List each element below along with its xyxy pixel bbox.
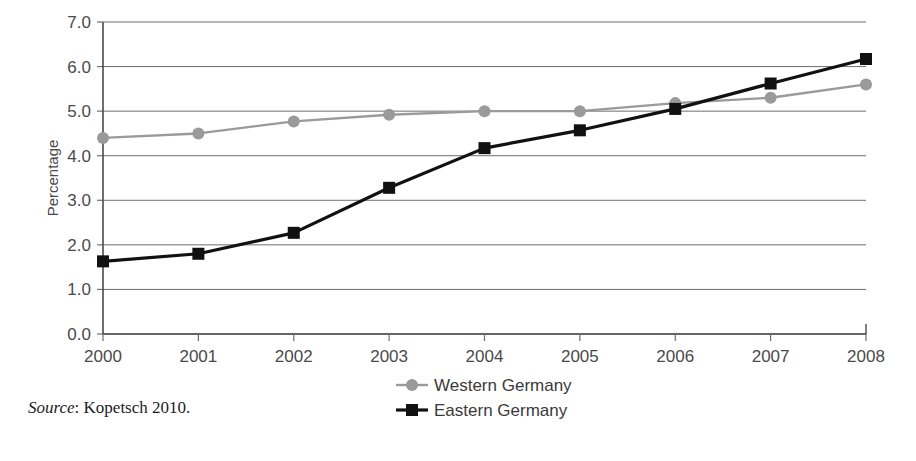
- data-point-marker: [192, 127, 204, 139]
- legend-item-eastern-germany: Eastern Germany: [396, 401, 568, 420]
- x-tick-label: 2004: [466, 347, 504, 366]
- x-tick-label: 2000: [84, 347, 122, 366]
- data-point-marker: [97, 132, 109, 144]
- data-point-marker: [669, 103, 681, 115]
- data-point-marker: [765, 78, 777, 90]
- y-tick-label: 6.0: [67, 58, 91, 77]
- data-point-marker: [97, 255, 109, 267]
- y-tick-label: 4.0: [67, 147, 91, 166]
- y-tick-label: 3.0: [67, 191, 91, 210]
- data-point-marker: [288, 115, 300, 127]
- x-axis-tick-labels: 200020012002200320042005200620072008: [84, 347, 885, 366]
- legend-item-western-germany: Western Germany: [396, 376, 572, 395]
- data-point-marker: [765, 92, 777, 104]
- data-series: [97, 53, 872, 267]
- y-axis-tick-labels: 0.01.02.03.04.05.06.07.0: [67, 13, 91, 344]
- data-point-marker: [574, 105, 586, 117]
- line-chart: 0.01.02.03.04.05.06.07.0 200020012002200…: [0, 0, 916, 461]
- chart-figure: 0.01.02.03.04.05.06.07.0 200020012002200…: [0, 0, 916, 461]
- data-point-marker: [860, 53, 872, 65]
- gridlines: [97, 22, 866, 334]
- data-point-marker: [860, 78, 872, 90]
- data-point-marker: [383, 109, 395, 121]
- y-tick-label: 2.0: [67, 236, 91, 255]
- data-point-marker: [574, 124, 586, 136]
- y-tick-label: 0.0: [67, 325, 91, 344]
- y-axis-title: Percentage: [44, 140, 61, 217]
- y-axis-title-text: Percentage: [44, 140, 61, 217]
- data-point-marker: [288, 227, 300, 239]
- x-axis-line: [103, 324, 866, 334]
- x-tick-label: 2005: [561, 347, 599, 366]
- source-label: Source: [28, 398, 75, 417]
- series-eastern-germany: [97, 53, 872, 267]
- data-point-marker: [192, 248, 204, 260]
- source-text: Kopetsch 2010.: [84, 398, 191, 417]
- x-tick-label: 2007: [752, 347, 790, 366]
- legend-label: Western Germany: [434, 376, 572, 395]
- source-note: Source: Kopetsch 2010.: [28, 398, 190, 418]
- data-point-marker: [479, 142, 491, 154]
- x-tick-label: 2008: [847, 347, 885, 366]
- y-tick-label: 5.0: [67, 102, 91, 121]
- x-axis-ticks: [103, 334, 866, 341]
- series-line: [103, 59, 866, 261]
- data-point-marker: [383, 182, 395, 194]
- chart-legend: Western GermanyEastern Germany: [396, 376, 572, 420]
- legend-marker-swatch: [406, 379, 418, 391]
- data-point-marker: [479, 105, 491, 117]
- x-tick-label: 2003: [370, 347, 408, 366]
- x-tick-label: 2001: [179, 347, 217, 366]
- y-tick-label: 7.0: [67, 13, 91, 32]
- legend-marker-swatch: [406, 404, 418, 416]
- x-tick-label: 2002: [275, 347, 313, 366]
- legend-label: Eastern Germany: [434, 401, 568, 420]
- x-tick-label: 2006: [656, 347, 694, 366]
- source-separator: :: [75, 398, 84, 417]
- y-tick-label: 1.0: [67, 280, 91, 299]
